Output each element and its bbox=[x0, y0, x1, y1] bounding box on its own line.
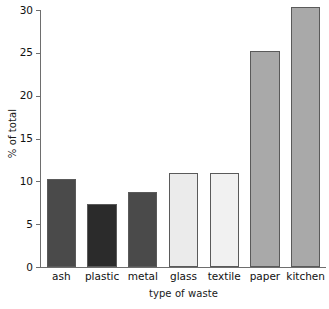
bar bbox=[250, 51, 279, 267]
x-axis-tick-label: glass bbox=[163, 270, 204, 282]
bar bbox=[210, 173, 239, 267]
x-axis-tick-label: plastic bbox=[82, 270, 123, 282]
y-axis-tick-label: 0 bbox=[11, 262, 33, 273]
bar bbox=[291, 7, 320, 267]
y-axis-tick-label: 30 bbox=[11, 5, 33, 16]
y-axis-tick-labels: 051015202530 bbox=[11, 0, 33, 309]
x-axis-tick-label: kitchen bbox=[285, 270, 326, 282]
plot-area bbox=[41, 0, 326, 267]
x-axis-title: type of waste bbox=[41, 288, 326, 299]
x-axis-tick-labels: ashplasticmetalglasstextilepaperkitchen bbox=[41, 270, 326, 286]
x-axis-tick-label: metal bbox=[122, 270, 163, 282]
bar bbox=[169, 173, 198, 267]
y-axis-tick-label: 25 bbox=[11, 47, 33, 58]
bar bbox=[47, 179, 76, 267]
y-axis-tick-label: 15 bbox=[11, 133, 33, 144]
y-axis-tick-label: 5 bbox=[11, 219, 33, 230]
bar bbox=[128, 192, 157, 267]
x-axis-tick-label: textile bbox=[204, 270, 245, 282]
x-axis-tick-label: paper bbox=[245, 270, 286, 282]
y-axis-tick-label: 10 bbox=[11, 176, 33, 187]
x-axis-tick-label: ash bbox=[41, 270, 82, 282]
x-axis-line bbox=[40, 267, 326, 268]
bar bbox=[87, 204, 116, 267]
bar-chart: % of total 051015202530 ashplasticmetalg… bbox=[0, 0, 329, 309]
y-axis-tick-label: 20 bbox=[11, 90, 33, 101]
